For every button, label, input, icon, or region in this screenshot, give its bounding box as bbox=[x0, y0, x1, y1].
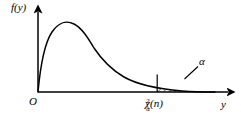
chi-square-figure: f(y) y O α χ2α(n) bbox=[0, 0, 241, 127]
alpha-leader-line bbox=[185, 67, 199, 80]
y-axis-label: f(y) bbox=[11, 2, 26, 13]
x-axis-label: y bbox=[221, 99, 226, 110]
tail-shaded-region bbox=[38, 22, 215, 92]
quantile-tick-label: χ2α(n) bbox=[145, 97, 170, 112]
tail-area-label: α bbox=[199, 56, 205, 67]
origin-label: O bbox=[29, 96, 37, 107]
quantile-argument: (n) bbox=[150, 97, 163, 109]
density-curve bbox=[38, 22, 215, 92]
